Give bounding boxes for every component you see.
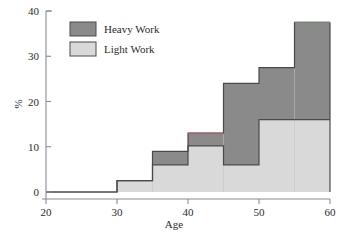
x-axis-title: Age [165,218,183,230]
x-tick-label: 60 [325,206,337,218]
light-work-bar [117,181,153,192]
x-tick-label: 30 [112,206,124,218]
light-work-bar [259,120,295,192]
x-tick-label: 50 [254,206,266,218]
light-work-bar [295,120,331,192]
y-tick-label: 0 [34,186,40,198]
light-work-bar [153,165,189,192]
histogram-svg: 010203040 2030405060 Age % Heavy WorkLig… [0,0,348,238]
y-axis-title: % [12,99,24,108]
legend-label: Light Work [104,43,155,55]
y-tick-label: 30 [28,50,40,62]
legend-swatch [70,22,96,36]
legend-label: Heavy Work [104,23,160,35]
light-work-bar [224,165,260,192]
x-tick-label: 40 [183,206,195,218]
x-tick-label: 20 [41,206,53,218]
light-work-bar [188,146,224,192]
chart-container: 010203040 2030405060 Age % Heavy WorkLig… [0,0,348,238]
y-tick-label: 10 [28,141,40,153]
y-tick-label: 40 [28,5,40,17]
legend-swatch [70,42,96,56]
y-tick-label: 20 [28,96,40,108]
